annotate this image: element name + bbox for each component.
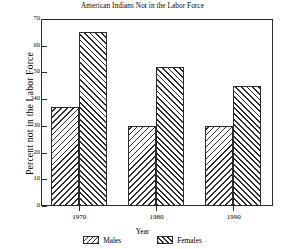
x-axis-tick-label: 1980	[140, 213, 173, 221]
bar-1980-females	[156, 67, 184, 206]
x-axis-tick-mark	[233, 206, 234, 211]
y-axis-tick-label: 10	[34, 174, 40, 181]
legend-entry-females: Females	[157, 236, 202, 245]
x-axis-tick-mark	[79, 206, 80, 211]
females-swatch-icon	[157, 236, 173, 244]
bar-1990-males	[205, 126, 233, 206]
bar-1970-females	[79, 32, 107, 206]
y-axis-tick: 70	[26, 19, 47, 20]
chart-figure: American Indians Not in the Labor Force …	[0, 0, 285, 249]
bar-1990-females	[233, 86, 261, 206]
y-axis-tick: 60	[26, 46, 47, 47]
x-axis-tick-mark	[156, 206, 157, 211]
y-axis-tick: 30	[26, 126, 47, 127]
bar-1980-males	[128, 126, 156, 206]
y-axis-tick-label: 0	[37, 201, 40, 208]
y-axis-tick-label: 70	[34, 14, 40, 21]
y-axis-title: Percent not in the Labor Force	[24, 29, 35, 199]
chart-title: American Indians Not in the Labor Force	[0, 2, 285, 11]
y-axis-tick-mark	[42, 206, 47, 207]
y-axis-tick-mark	[42, 126, 47, 127]
y-axis-tick-label: 50	[34, 67, 40, 74]
legend-entry-males: Males	[83, 236, 121, 245]
y-axis-tick: 20	[26, 153, 47, 154]
x-axis-tick-label: 1970	[63, 213, 96, 221]
y-axis-tick-label: 20	[34, 148, 40, 155]
chart-legend: MalesFemales	[0, 233, 285, 247]
legend-label: Females	[177, 236, 202, 245]
y-axis-tick-mark	[42, 99, 47, 100]
y-axis-tick: 40	[26, 99, 47, 100]
y-axis-tick: 10	[26, 179, 47, 180]
legend-label: Males	[103, 236, 121, 245]
y-axis-tick: 0	[26, 206, 47, 207]
y-axis-tick-mark	[42, 46, 47, 47]
y-axis-tick-mark	[42, 72, 47, 73]
males-swatch-icon	[83, 236, 99, 244]
y-axis-tick-label: 40	[34, 94, 40, 101]
y-axis-tick-mark	[42, 179, 47, 180]
bar-1970-males	[51, 107, 79, 206]
y-axis-tick-label: 60	[34, 41, 40, 48]
y-axis-tick: 50	[26, 72, 47, 73]
y-axis-tick-label: 30	[34, 121, 40, 128]
y-axis-tick-mark	[42, 153, 47, 154]
y-axis-tick-mark	[42, 19, 47, 20]
x-axis-tick-label: 1990	[217, 213, 250, 221]
